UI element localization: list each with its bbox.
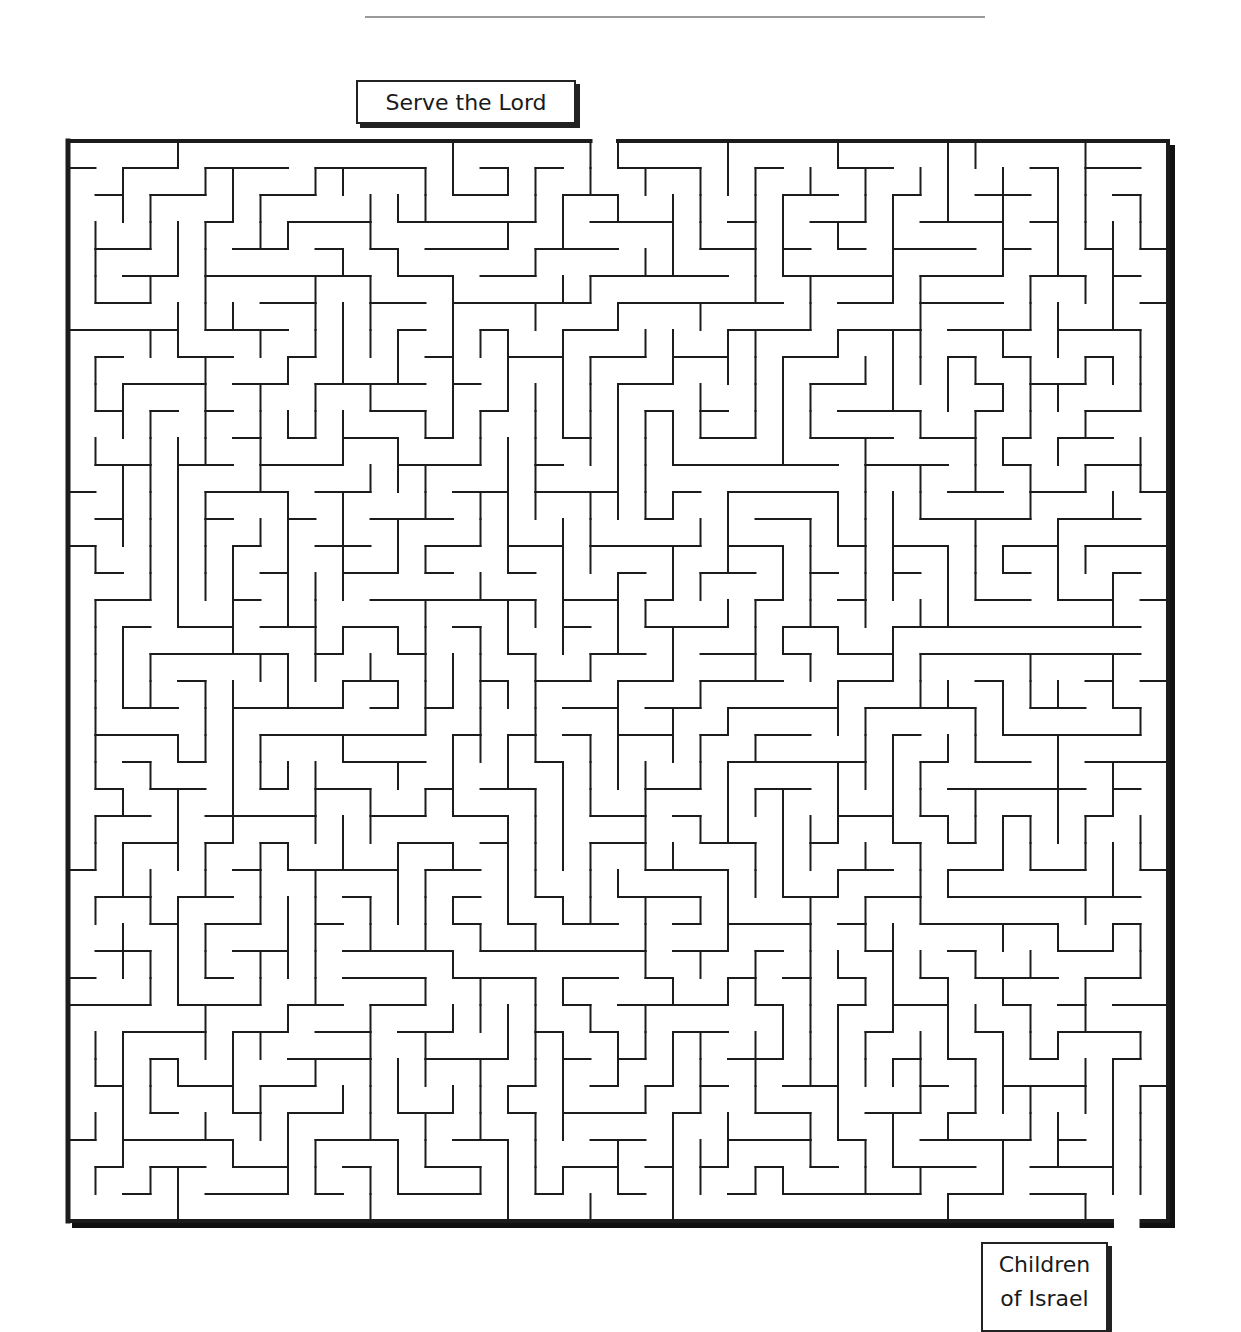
maze-frame-shadow [72, 145, 1175, 1228]
finish-label-line2: of Israel [1000, 1282, 1088, 1316]
finish-label-line1: Children [999, 1248, 1091, 1282]
maze-exit-gap [1114, 1219, 1140, 1231]
finish-label: Children of Israel [981, 1242, 1108, 1332]
